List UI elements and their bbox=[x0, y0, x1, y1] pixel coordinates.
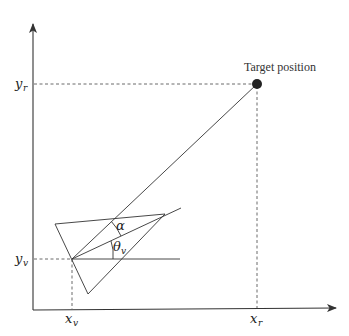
x-axis bbox=[33, 308, 336, 310]
svg-text:y: y bbox=[14, 76, 23, 91]
svg-text:x: x bbox=[65, 311, 73, 326]
x-r-label: x r bbox=[250, 311, 263, 328]
vehicle-heading-line bbox=[72, 208, 181, 259]
svg-text:r: r bbox=[258, 318, 263, 328]
svg-text:v: v bbox=[23, 258, 28, 268]
svg-text:θ: θ bbox=[113, 239, 121, 254]
svg-text:r: r bbox=[23, 83, 28, 93]
alpha-label: α bbox=[116, 218, 125, 233]
svg-text:x: x bbox=[250, 311, 258, 326]
svg-text:v: v bbox=[121, 246, 126, 256]
y-r-label: y r bbox=[14, 76, 28, 93]
y-v-label: y v bbox=[14, 251, 28, 268]
vehicle-target-geometry-diagram: Target position y r y v x v x r α θ v bbox=[0, 0, 349, 336]
target-position-marker bbox=[252, 79, 262, 89]
svg-text:v: v bbox=[73, 318, 78, 328]
vehicle-triangle bbox=[55, 214, 165, 294]
line-of-sight-to-target bbox=[72, 84, 257, 259]
svg-text:y: y bbox=[14, 251, 23, 266]
x-v-label: x v bbox=[65, 311, 78, 328]
target-position-label: Target position bbox=[244, 60, 316, 74]
theta-v-label: θ v bbox=[113, 239, 126, 256]
